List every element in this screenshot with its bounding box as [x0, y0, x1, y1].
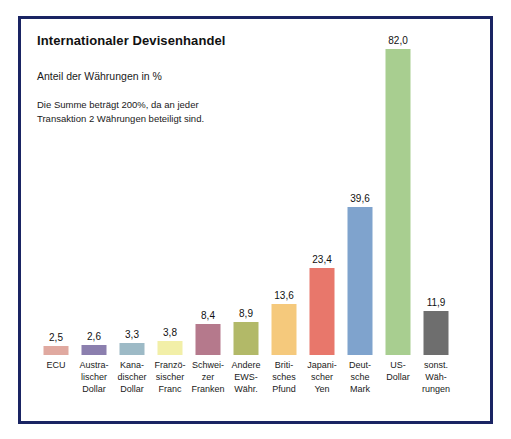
bar-track: 82,0	[379, 49, 417, 355]
bar[interactable]: 2,6	[82, 345, 107, 355]
plot-area: 2,5ECU2,6Austra- lischer Dollar3,3Kana- …	[21, 19, 490, 421]
bar-track: 23,4	[303, 49, 341, 355]
bar-column: 8,9Andere EWS- Währ.	[227, 19, 265, 421]
bar-value-label: 23,4	[312, 254, 331, 265]
bar[interactable]: 3,8	[158, 341, 183, 355]
bar-value-label: 2,6	[87, 331, 101, 342]
bar-column: 82,0US- Dollar	[379, 19, 417, 421]
category-label: sonst. Wäh- rungen	[415, 359, 457, 395]
category-label: Schwei- zer Franken	[187, 359, 229, 395]
category-label: Kana- discher Dollar	[111, 359, 153, 395]
bar-value-label: 3,3	[125, 329, 139, 340]
bar[interactable]: 3,3	[120, 343, 145, 355]
category-label: Deut- sche Mark	[339, 359, 381, 395]
bar-track: 11,9	[417, 49, 455, 355]
bar[interactable]: 11,9	[424, 311, 449, 355]
bar-column: 13,6Briti- sches Pfund	[265, 19, 303, 421]
bar[interactable]: 8,4	[196, 324, 221, 355]
category-label: Franzö- sischer Franc	[149, 359, 191, 395]
bar-track: 3,3	[113, 49, 151, 355]
bar-value-label: 11,9	[427, 297, 446, 308]
bar-column: 11,9sonst. Wäh- rungen	[417, 19, 455, 421]
category-label: Andere EWS- Währ.	[225, 359, 267, 395]
bar[interactable]: 2,5	[44, 346, 69, 355]
bar[interactable]: 8,9	[234, 322, 259, 355]
bar-track: 13,6	[265, 49, 303, 355]
category-label: Japani- scher Yen	[301, 359, 343, 395]
bar-value-label: 8,4	[201, 310, 215, 321]
bar[interactable]: 23,4	[310, 268, 335, 355]
bar-column: 2,5ECU	[37, 19, 75, 421]
bar-value-label: 8,9	[239, 308, 253, 319]
bar-column: 8,4Schwei- zer Franken	[189, 19, 227, 421]
bar[interactable]: 39,6	[348, 207, 373, 355]
bar[interactable]: 82,0	[386, 49, 411, 355]
bar-column: 39,6Deut- sche Mark	[341, 19, 379, 421]
chart-figure: Internationaler Devisenhandel Anteil der…	[18, 16, 493, 424]
bar-track: 2,5	[37, 49, 75, 355]
bar-track: 8,4	[189, 49, 227, 355]
bar-column: 2,6Austra- lischer Dollar	[75, 19, 113, 421]
bar-value-label: 13,6	[274, 290, 293, 301]
bar[interactable]: 13,6	[272, 304, 297, 355]
bar-column: 23,4Japani- scher Yen	[303, 19, 341, 421]
bar-track: 2,6	[75, 49, 113, 355]
bar-value-label: 82,0	[388, 35, 407, 46]
bar-column: 3,8Franzö- sischer Franc	[151, 19, 189, 421]
category-label: Austra- lischer Dollar	[73, 359, 115, 395]
bar-column: 3,3Kana- discher Dollar	[113, 19, 151, 421]
bar-value-label: 39,6	[350, 193, 369, 204]
bar-value-label: 2,5	[49, 332, 63, 343]
bar-track: 3,8	[151, 49, 189, 355]
category-label: ECU	[35, 359, 77, 371]
category-label: Briti- sches Pfund	[263, 359, 305, 395]
bar-value-label: 3,8	[163, 327, 177, 338]
category-label: US- Dollar	[377, 359, 419, 383]
bar-track: 39,6	[341, 49, 379, 355]
bar-track: 8,9	[227, 49, 265, 355]
